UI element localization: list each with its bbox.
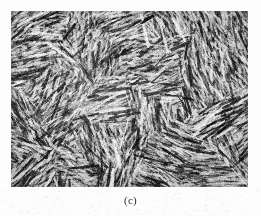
micrograph-plate	[11, 11, 248, 187]
figure-page: (c)	[0, 0, 261, 216]
figure-caption: (c)	[0, 193, 261, 207]
micrograph-image	[11, 11, 248, 187]
